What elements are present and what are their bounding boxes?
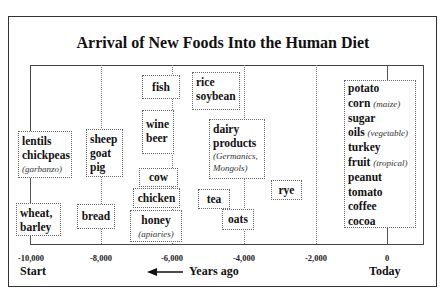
food-item: cocoa: [348, 215, 412, 230]
arrow-left-icon: [147, 268, 183, 276]
food-item: oils (vegetable): [348, 126, 412, 141]
note-apiaries: (apiaries): [134, 227, 178, 241]
timeline-frame-right: [423, 65, 424, 244]
box-rice: rice soybean: [192, 72, 240, 110]
food-item: fruit (tropical): [348, 156, 412, 171]
food-bread: bread: [81, 207, 111, 226]
food-item: corn (maize): [348, 97, 412, 112]
years-ago-label: Years ago: [189, 264, 239, 279]
gridline-minus-2000: [316, 65, 317, 244]
box-sheep: sheep goat pig: [86, 129, 123, 177]
tick-minus-2000: -2,000: [305, 253, 327, 263]
box-chicken: chicken: [133, 188, 180, 208]
food-products: products: [213, 136, 261, 150]
connector-lentils-wheat: [30, 178, 31, 203]
food-barley: barley: [20, 220, 57, 234]
box-fish: fish: [142, 75, 180, 99]
food-wheat: wheat,: [20, 206, 57, 220]
timeline-frame-left: [30, 65, 31, 141]
connector-modern-top: [387, 65, 388, 80]
tick-minus-8000: -8,000: [90, 253, 112, 263]
food-wine: wine: [146, 117, 170, 131]
tick-zero: 0: [385, 253, 389, 263]
food-pig: pig: [90, 160, 119, 174]
time-axis: [30, 244, 424, 245]
food-soybean: soybean: [196, 89, 236, 103]
food-item: coffee: [348, 200, 412, 215]
food-item: peanut: [348, 171, 412, 186]
box-lentils: lentils chickpeas (garbanzo): [18, 131, 72, 178]
food-item: potato: [348, 82, 412, 97]
food-rye: rye: [275, 183, 298, 197]
timeline-frame-top: [30, 65, 424, 66]
box-honey: honey (apiaries): [130, 210, 182, 242]
food-item: sugar: [348, 112, 412, 127]
food-rice: rice: [196, 75, 236, 89]
food-item: turkey: [348, 141, 412, 156]
food-chickpeas: chickpeas: [22, 148, 68, 162]
food-chicken: chicken: [137, 191, 176, 205]
tick-minus-10000: -10,000: [18, 253, 44, 263]
note-germanics: (Germanics,: [213, 150, 261, 162]
food-honey: honey: [134, 213, 178, 227]
food-item: tomato: [348, 186, 412, 201]
food-goat: goat: [90, 146, 119, 160]
box-wine: wine beer: [142, 110, 174, 154]
today-label: Today: [369, 264, 401, 279]
box-oats: oats: [222, 209, 254, 230]
food-fish: fish: [146, 78, 176, 96]
box-rye: rye: [271, 180, 302, 200]
box-tea: tea: [198, 189, 230, 209]
start-label: Start: [20, 264, 46, 279]
box-bread: bread: [77, 204, 115, 229]
box-modern-foods: potato corn (maize) sugar oils (vegetabl…: [344, 80, 416, 228]
food-sheep: sheep: [90, 132, 119, 146]
note-mongols: Mongols): [213, 162, 261, 174]
food-dairy: dairy: [213, 122, 261, 136]
food-oats: oats: [226, 212, 250, 227]
food-lentils: lentils: [22, 134, 68, 148]
box-dairy: dairy products (Germanics, Mongols): [209, 119, 265, 179]
food-cow: cow: [143, 171, 174, 184]
box-cow: cow: [139, 168, 178, 187]
note-garbanzo: (garbanzo): [22, 162, 68, 176]
box-wheat: wheat, barley: [16, 203, 61, 236]
diagram-title: Arrival of New Foods Into the Human Diet: [0, 34, 446, 52]
food-beer: beer: [146, 131, 170, 145]
food-tea: tea: [202, 192, 226, 206]
tick-minus-6000: -6,000: [161, 253, 183, 263]
connector-modern-axis: [387, 228, 388, 244]
tick-minus-4000: -4,000: [233, 253, 255, 263]
